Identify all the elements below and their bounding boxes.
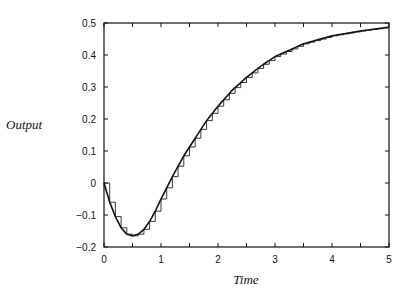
y-tick-label: 0 <box>90 178 96 189</box>
staircase-series <box>104 28 389 236</box>
y-tick-label: 0.5 <box>82 18 96 29</box>
y-tick-label: −0.1 <box>76 210 96 221</box>
x-tick-label: 1 <box>158 254 164 265</box>
step-response-chart: 012345−0.2−0.100.10.20.30.40.5 Output Ti… <box>0 0 409 303</box>
x-tick-label: 3 <box>272 254 278 265</box>
x-tick-label: 0 <box>101 254 107 265</box>
y-tick-label: 0.4 <box>82 50 96 61</box>
axis-ticks <box>104 23 389 247</box>
x-axis-title: Time <box>233 272 259 287</box>
y-tick-label: 0.3 <box>82 82 96 93</box>
x-tick-label: 4 <box>329 254 335 265</box>
plot-frame <box>104 23 389 247</box>
x-tick-label: 5 <box>386 254 392 265</box>
y-tick-label: 0.1 <box>82 146 96 157</box>
y-tick-label: 0.2 <box>82 114 96 125</box>
x-tick-label: 2 <box>215 254 221 265</box>
continuous-series <box>104 27 389 236</box>
y-axis-title: Output <box>6 117 43 132</box>
y-tick-label: −0.2 <box>76 242 96 253</box>
